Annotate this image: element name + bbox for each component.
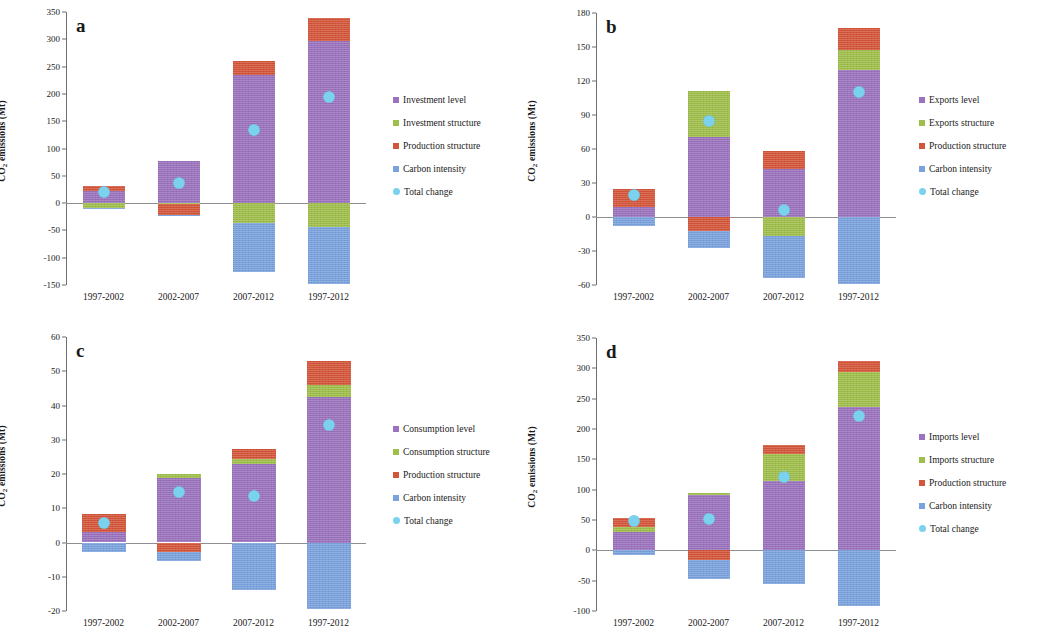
total-change-marker <box>173 486 184 497</box>
bar-texture <box>688 550 730 560</box>
legend-swatch-icon <box>393 143 399 149</box>
y-axis-spine <box>66 337 67 611</box>
bar-texture <box>307 361 351 385</box>
bar-segment <box>838 372 880 407</box>
y-tick-mark <box>592 149 596 150</box>
bar-texture <box>838 217 880 284</box>
bar-segment <box>838 407 880 550</box>
x-tick-label: 2007-2012 <box>233 618 274 628</box>
bar-segment <box>688 550 730 560</box>
bar-texture <box>688 91 730 136</box>
legend-item: Production structure <box>919 471 1006 494</box>
y-tick-mark <box>592 285 596 286</box>
bar-texture <box>763 445 805 454</box>
plot-area-b: 1801501209060300-30-60 <box>596 13 896 285</box>
x-tick-label: 1997-2002 <box>83 292 124 302</box>
bar-group <box>83 12 125 285</box>
plot-area-c: 6050403020100-10-20 <box>66 337 366 611</box>
y-tick-mark <box>62 93 66 94</box>
y-axis-spine <box>66 12 67 285</box>
legend-label: Investment level <box>403 95 466 105</box>
bar-group <box>613 338 655 611</box>
legend-label: Investment structure <box>403 118 481 128</box>
total-change-marker <box>98 187 109 198</box>
legend-swatch-icon <box>393 120 399 126</box>
legend-swatch-icon <box>919 188 926 195</box>
x-tick-label: 2007-2012 <box>763 292 804 302</box>
legend-item: Imports level <box>919 425 1006 448</box>
bar-texture <box>233 223 275 272</box>
legend-item: Total change <box>919 517 1006 540</box>
legend-swatch-icon <box>919 457 925 463</box>
legend-d: Imports levelImports structureProduction… <box>919 425 1006 540</box>
legend-swatch-icon <box>919 434 925 440</box>
legend-label: Production structure <box>403 470 480 480</box>
y-tick-mark <box>62 405 66 406</box>
y-tick-mark <box>62 439 66 440</box>
legend-label: Imports structure <box>929 455 994 465</box>
bar-texture <box>613 550 655 554</box>
bar-texture <box>157 552 201 561</box>
legend-b: Exports levelExports structureProduction… <box>919 88 1006 203</box>
bar-segment <box>688 91 730 136</box>
x-tick-label: 1997-2002 <box>613 292 654 302</box>
legend-item: Investment level <box>393 88 481 111</box>
total-change-marker <box>703 115 714 126</box>
legend-label: Carbon intensity <box>403 493 466 503</box>
y-tick-mark <box>592 429 596 430</box>
bar-segment <box>233 75 275 203</box>
legend-label: Imports level <box>929 432 979 442</box>
bar-segment <box>233 203 275 223</box>
bar-group <box>307 337 351 611</box>
legend-item: Total change <box>393 180 481 203</box>
legend-label: Exports level <box>929 95 979 105</box>
legend-label: Total change <box>930 524 979 534</box>
x-tick-label: 2007-2012 <box>763 618 804 628</box>
bar-segment <box>688 493 730 495</box>
x-tick-label: 2002-2007 <box>158 618 199 628</box>
bar-segment <box>158 204 200 215</box>
bar-texture <box>763 550 805 583</box>
legend-item: Exports level <box>919 88 1006 111</box>
bar-texture <box>613 527 655 532</box>
bar-segment <box>688 560 730 579</box>
x-tick-label: 1997-2012 <box>308 292 349 302</box>
legend-swatch-icon <box>393 426 399 432</box>
bar-texture <box>838 361 880 372</box>
bar-segment <box>688 137 730 217</box>
total-change-marker <box>778 471 789 482</box>
bar-texture <box>233 61 275 75</box>
bar-texture <box>308 203 350 227</box>
legend-label: Consumption structure <box>403 447 490 457</box>
legend-swatch-icon <box>919 120 925 126</box>
bar-group <box>157 337 201 611</box>
bar-texture <box>838 50 880 69</box>
bar-segment <box>838 361 880 372</box>
y-tick-mark <box>592 183 596 184</box>
bar-texture <box>838 407 880 550</box>
x-tick-label: 2007-2012 <box>233 292 274 302</box>
bar-group <box>688 338 730 611</box>
bar-group <box>233 12 275 285</box>
total-change-marker <box>853 411 864 422</box>
bar-texture <box>232 464 276 542</box>
y-axis-title: CO2 emissions (Mt) <box>0 86 9 196</box>
y-tick-mark <box>62 285 66 286</box>
bar-group <box>838 338 880 611</box>
legend-label: Consumption level <box>403 424 475 434</box>
x-tick-label: 2002-2007 <box>688 618 729 628</box>
legend-item: Carbon intensity <box>919 494 1006 517</box>
legend-label: Production structure <box>929 141 1006 151</box>
bar-texture <box>613 532 655 550</box>
legend-label: Carbon intensity <box>403 164 466 174</box>
bar-segment <box>688 231 730 248</box>
y-tick-mark <box>62 66 66 67</box>
bar-segment <box>83 208 125 209</box>
bar-texture <box>838 550 880 605</box>
plot-area-a: 350300250200150100500-50-100-150 <box>66 12 366 285</box>
legend-item: Investment structure <box>393 111 481 134</box>
bar-texture <box>82 532 126 542</box>
bar-texture <box>688 493 730 495</box>
bar-texture <box>688 560 730 579</box>
bar-group <box>232 337 276 611</box>
